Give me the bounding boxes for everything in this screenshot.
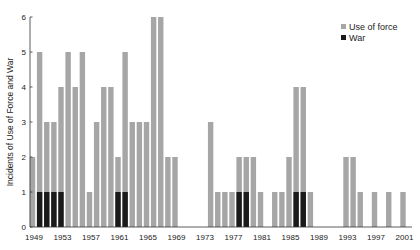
bar-war-1951 bbox=[44, 192, 49, 227]
bar-use-of-force-1997 bbox=[372, 192, 377, 227]
bar-use-of-force-1967 bbox=[158, 17, 163, 227]
x-tick-label: 1969 bbox=[168, 233, 186, 242]
x-tick-label: 2001 bbox=[396, 233, 414, 242]
x-tick-label: 1989 bbox=[310, 233, 328, 242]
bar-use-of-force-1983 bbox=[272, 192, 277, 227]
bar-use-of-force-1957 bbox=[87, 192, 92, 227]
bar-use-of-force-1974 bbox=[208, 122, 213, 227]
x-tick-label: 1961 bbox=[111, 233, 129, 242]
y-tick-label: 2 bbox=[22, 153, 27, 162]
y-tick-label: 1 bbox=[22, 188, 27, 197]
bar-war-1987 bbox=[301, 192, 306, 227]
bar-use-of-force-1966 bbox=[151, 17, 156, 227]
bar-use-of-force-1968 bbox=[165, 157, 170, 227]
legend-swatch-war bbox=[341, 35, 346, 40]
bar-war-1986 bbox=[293, 192, 298, 227]
x-tick-label: 1985 bbox=[282, 233, 300, 242]
bar-war-1962 bbox=[122, 192, 127, 227]
bar-use-of-force-1955 bbox=[73, 87, 78, 227]
y-tick-label: 4 bbox=[22, 83, 27, 92]
bar-use-of-force-1977 bbox=[229, 192, 234, 227]
bar-use-of-force-1958 bbox=[94, 122, 99, 227]
x-tick-label: 1993 bbox=[339, 233, 357, 242]
bar-war-1979 bbox=[244, 192, 249, 227]
bar-use-of-force-1964 bbox=[137, 122, 142, 227]
bar-chart: 0123456 19491953195719611965196919731977… bbox=[0, 0, 420, 250]
x-ticks: 1949195319571961196519691973197719811985… bbox=[25, 233, 414, 242]
x-tick-label: 1973 bbox=[196, 233, 214, 242]
x-tick-label: 1953 bbox=[54, 233, 72, 242]
x-tick-label: 1977 bbox=[225, 233, 243, 242]
bar-use-of-force-1969 bbox=[172, 157, 177, 227]
bar-use-of-force-1956 bbox=[80, 52, 85, 227]
bar-use-of-force-1988 bbox=[308, 192, 313, 227]
bar-war-1952 bbox=[51, 192, 56, 227]
bar-war-1961 bbox=[115, 192, 120, 227]
bar-use-of-force-1985 bbox=[286, 157, 291, 227]
bar-war-1950 bbox=[37, 192, 42, 227]
bar-use-of-force-1993 bbox=[343, 157, 348, 227]
bar-use-of-force-1975 bbox=[215, 192, 220, 227]
legend-swatch-use-of-force bbox=[341, 24, 346, 29]
legend-label-use-of-force: Use of force bbox=[349, 22, 398, 32]
bar-use-of-force-1963 bbox=[130, 122, 135, 227]
y-axis-title: Incidents of Use of Force and War bbox=[5, 58, 15, 187]
bar-use-of-force-1984 bbox=[279, 192, 284, 227]
legend-label-war: War bbox=[349, 33, 365, 43]
y-tick-label: 3 bbox=[22, 118, 27, 127]
legend: Use of force War bbox=[341, 22, 398, 43]
bar-use-of-force-1960 bbox=[108, 87, 113, 227]
y-tick-label: 5 bbox=[22, 48, 27, 57]
bar-war-1953 bbox=[58, 192, 63, 227]
x-tick-label: 1965 bbox=[139, 233, 157, 242]
bar-use-of-force-1995 bbox=[358, 192, 363, 227]
bar-use-of-force-1994 bbox=[350, 157, 355, 227]
bar-use-of-force-1981 bbox=[258, 192, 263, 227]
x-tick-label: 1981 bbox=[253, 233, 271, 242]
bar-use-of-force-1954 bbox=[65, 52, 70, 227]
bar-use-of-force-1976 bbox=[222, 192, 227, 227]
x-tick-label: 1997 bbox=[367, 233, 385, 242]
y-tick-label: 6 bbox=[22, 13, 27, 22]
x-tick-label: 1957 bbox=[82, 233, 100, 242]
y-tick-label: 0 bbox=[22, 223, 27, 232]
use-of-force-bars bbox=[30, 17, 406, 227]
bar-use-of-force-1965 bbox=[144, 122, 149, 227]
bar-use-of-force-2001 bbox=[400, 192, 405, 227]
bar-use-of-force-1980 bbox=[251, 157, 256, 227]
bar-war-1978 bbox=[236, 192, 241, 227]
bar-use-of-force-1999 bbox=[386, 192, 391, 227]
x-tick-label: 1949 bbox=[25, 233, 43, 242]
bar-use-of-force-1959 bbox=[101, 87, 106, 227]
